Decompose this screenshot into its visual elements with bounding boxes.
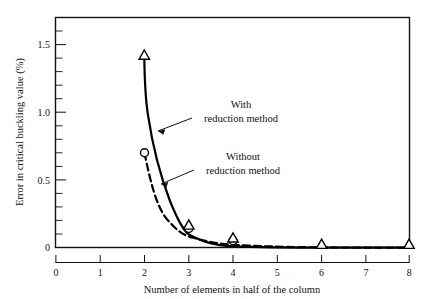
ytick-label-0: 0 (45, 242, 50, 253)
ytick-label-2: 1.0 (38, 107, 51, 118)
series-with-reduction-curve (144, 57, 409, 248)
annotation-without-reduction-leader (161, 170, 194, 184)
marker-circle-x2 (141, 149, 149, 157)
annotation-with-reduction-line1: With (231, 99, 252, 110)
marker-triangle-x8 (404, 239, 414, 248)
annotation-without-reduction-line1: Without (226, 151, 260, 162)
xtick-label-2: 2 (142, 267, 147, 278)
x-axis-title: Number of elements in half of the column (144, 284, 321, 295)
chart-figure: 0 0.5 1.0 1.5 Error in critical buckling… (0, 0, 448, 299)
y-axis-title: Error in critical buckling value (%) (14, 58, 26, 206)
marker-triangle-x6 (316, 239, 326, 248)
series-with-reduction-markers (139, 50, 414, 248)
ytick-label-1: 0.5 (38, 175, 51, 186)
xtick-label-6: 6 (319, 267, 324, 278)
xtick-label-3: 3 (186, 267, 191, 278)
marker-triangle-x4 (228, 233, 238, 242)
annotation-without-reduction-line2: reduction method (206, 165, 281, 176)
xtick-label-4: 4 (231, 267, 236, 278)
y-axis-ticks (56, 45, 67, 248)
x-axis-ticks (56, 255, 409, 263)
annotation-with-reduction-leader (158, 118, 192, 131)
xtick-label-5: 5 (275, 267, 280, 278)
xtick-label-8: 8 (407, 267, 412, 278)
xtick-label-1: 1 (98, 267, 103, 278)
annotation-without-reduction: Without reduction method (161, 151, 281, 188)
annotation-with-reduction-line2: reduction method (204, 113, 279, 124)
y-axis-minor-ticks (56, 31, 63, 234)
annotation-with-reduction: With reduction method (158, 99, 279, 135)
xtick-label-0: 0 (53, 267, 58, 278)
marker-triangle-x3 (184, 220, 194, 229)
xtick-label-7: 7 (363, 267, 368, 278)
plot-frame (56, 18, 410, 248)
ytick-label-3: 1.5 (38, 39, 51, 50)
marker-triangle-x2 (139, 50, 149, 59)
